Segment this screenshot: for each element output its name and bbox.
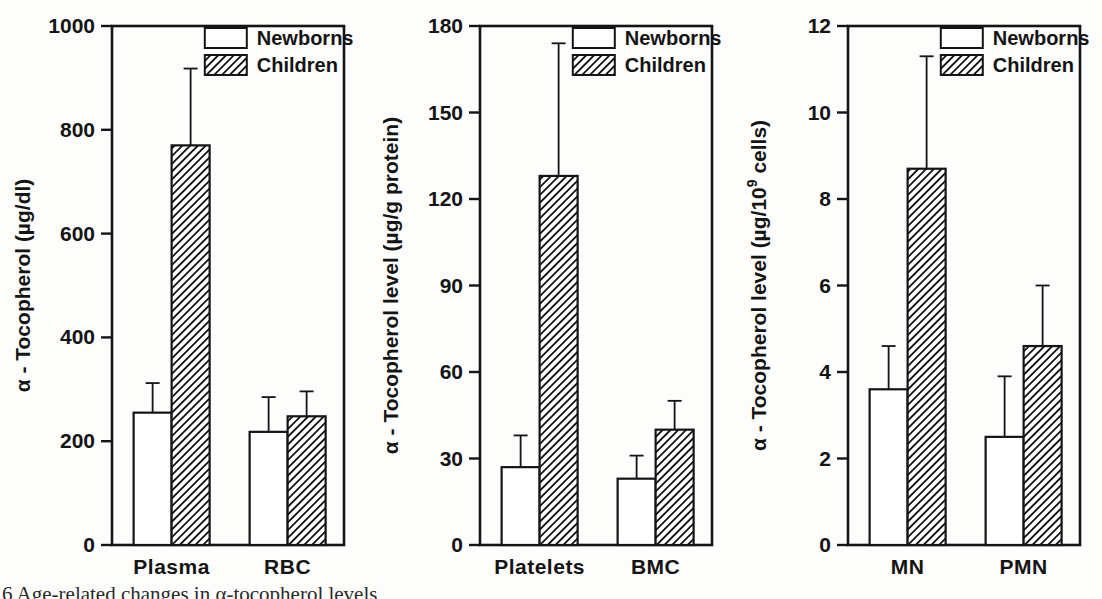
y-tick-label: 1000: [48, 14, 95, 37]
y-tick-label: 180: [428, 14, 463, 37]
bar-newborns-bmc: [618, 479, 656, 545]
bar-chart-svg-plasma-rbc: 02004006008001000α - Tocopherol (µg/dl)P…: [0, 0, 366, 599]
y-tick-label: 8: [819, 187, 831, 210]
category-label: MN: [891, 555, 925, 578]
y-tick-label: 600: [60, 222, 95, 245]
y-tick-label: 800: [60, 118, 95, 141]
y-tick-label: 2: [819, 447, 831, 470]
chart-mn-pmn: 024681012α - Tocopherol level (µg/109 ce…: [736, 0, 1102, 599]
figure: 02004006008001000α - Tocopherol (µg/dl)P…: [0, 0, 1102, 599]
bar-children-plasma: [172, 145, 210, 545]
y-tick-label: 150: [428, 101, 463, 124]
category-label: Platelets: [494, 555, 585, 578]
legend-swatch-newborns: [205, 28, 247, 48]
y-tick-label: 10: [808, 101, 831, 124]
y-tick-label: 400: [60, 325, 95, 348]
figure-caption-fragment: 6 Age-related changes in α-tocopherol le…: [2, 582, 642, 599]
bar-chart-svg-platelets-bmc: 0306090120150180α - Tocopherol level (µg…: [368, 0, 734, 599]
y-tick-label: 0: [83, 533, 95, 556]
bar-children-mn: [908, 169, 946, 545]
legend-swatch-children: [573, 55, 615, 75]
y-tick-label: 0: [819, 533, 831, 556]
legend-label: Newborns: [257, 27, 354, 49]
bar-children-bmc: [656, 430, 694, 545]
bar-children-pmn: [1024, 346, 1062, 545]
y-tick-label: 30: [440, 447, 463, 470]
legend-swatch-children: [941, 55, 983, 75]
bar-children-platelets: [540, 176, 578, 545]
y-tick-label: 6: [819, 274, 831, 297]
category-label: PMN: [1000, 555, 1048, 578]
legend-label: Newborns: [625, 27, 722, 49]
chart-plasma-rbc: 02004006008001000α - Tocopherol (µg/dl)P…: [0, 0, 366, 599]
y-axis-label: α - Tocopherol level (µg/109 cells): [744, 120, 770, 451]
legend-label: Children: [993, 54, 1074, 76]
bar-children-rbc: [288, 416, 326, 545]
bar-newborns-plasma: [134, 413, 172, 545]
legend-label: Children: [625, 54, 706, 76]
bar-newborns-mn: [870, 389, 908, 545]
bar-newborns-pmn: [986, 437, 1024, 545]
y-axis-label: α - Tocopherol (µg/dl): [11, 179, 34, 393]
bar-newborns-rbc: [250, 432, 288, 545]
y-tick-label: 60: [440, 360, 463, 383]
legend-swatch-children: [205, 55, 247, 75]
category-label: Plasma: [133, 555, 210, 578]
category-label: BMC: [631, 555, 680, 578]
legend-label: Newborns: [993, 27, 1090, 49]
y-tick-label: 0: [451, 533, 463, 556]
legend-swatch-newborns: [941, 28, 983, 48]
y-tick-label: 4: [819, 360, 831, 383]
y-axis-label: α - Tocopherol level (µg/g protein): [379, 117, 402, 454]
category-label: RBC: [264, 555, 311, 578]
y-tick-label: 200: [60, 429, 95, 452]
y-tick-label: 12: [808, 14, 831, 37]
bar-chart-svg-mn-pmn: 024681012α - Tocopherol level (µg/109 ce…: [736, 0, 1102, 599]
bar-newborns-platelets: [502, 467, 540, 545]
legend-swatch-newborns: [573, 28, 615, 48]
y-tick-label: 90: [440, 274, 463, 297]
y-tick-label: 120: [428, 187, 463, 210]
legend-label: Children: [257, 54, 338, 76]
chart-platelets-bmc: 0306090120150180α - Tocopherol level (µg…: [368, 0, 734, 599]
